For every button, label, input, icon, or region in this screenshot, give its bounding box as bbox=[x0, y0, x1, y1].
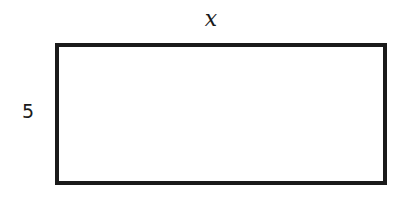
width-label: x bbox=[200, 6, 222, 31]
height-label: 5 bbox=[22, 100, 34, 122]
rectangle bbox=[55, 43, 387, 185]
